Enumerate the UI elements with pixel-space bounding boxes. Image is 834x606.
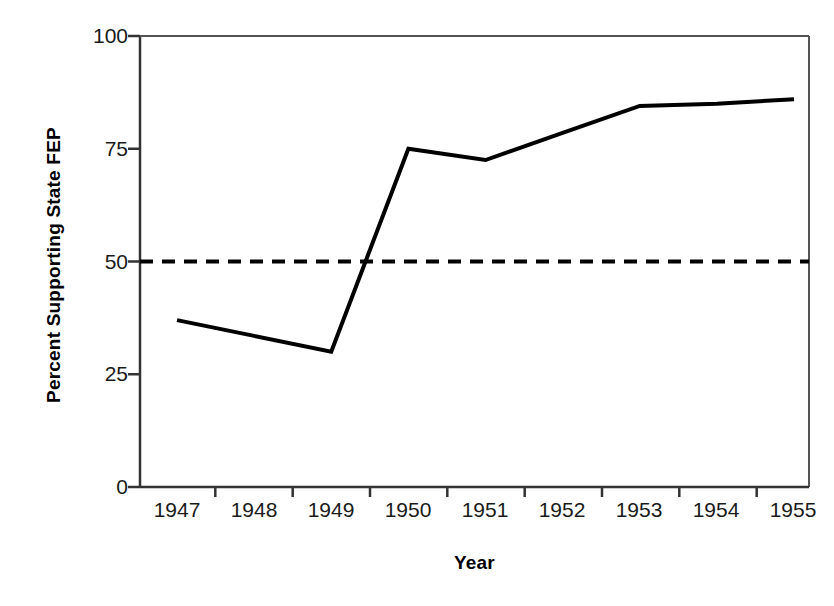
y-tick-marks	[128, 36, 140, 487]
line-chart-figure: Percent Supporting State FEP 100 75 50 2…	[0, 0, 834, 606]
data-series-percent-supporting-state-fep	[177, 99, 794, 352]
x-tick-marks	[215, 487, 756, 497]
plot-area	[0, 0, 834, 606]
